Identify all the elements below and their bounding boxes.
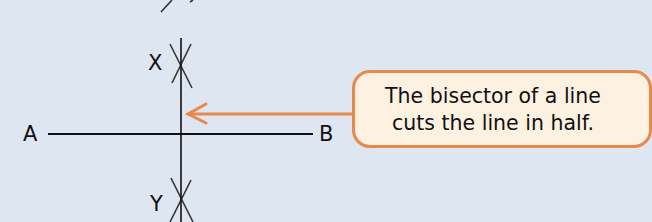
label-a: A [23,124,37,145]
callout-line-1: The bisector of a line [359,83,627,110]
label-y: Y [150,194,163,215]
label-x: X [148,53,162,74]
callout-line-2: cuts the line in half. [359,110,627,137]
pointer-arrow [188,104,354,123]
callout-box: The bisector of a line cuts the line in … [352,70,652,148]
top-arc-marks [161,0,193,12]
label-b: B [319,124,333,145]
